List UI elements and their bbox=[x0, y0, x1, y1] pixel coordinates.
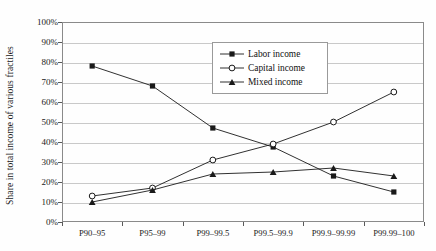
y-axis-tick-label: 20% bbox=[28, 177, 58, 187]
x-axis-tick-mark bbox=[424, 222, 425, 226]
y-axis-tick-mark bbox=[58, 202, 62, 203]
chart-figure: Share in total income of various fractil… bbox=[0, 0, 436, 251]
x-axis-tick-mark bbox=[62, 222, 63, 226]
y-axis-tick-mark bbox=[58, 42, 62, 43]
y-axis-tick-label: 10% bbox=[28, 197, 58, 207]
y-axis-tick-label: 80% bbox=[28, 57, 58, 67]
y-axis-tick-label: 30% bbox=[28, 157, 58, 167]
y-axis-tick-mark bbox=[58, 102, 62, 103]
y-axis-title: Share in total income of various fractil… bbox=[0, 0, 20, 251]
y-axis-tick-labels: 0%10%20%30%40%50%60%70%80%90%100% bbox=[24, 0, 58, 251]
y-axis-tick-label: 0% bbox=[28, 217, 58, 227]
gridline bbox=[63, 163, 423, 164]
legend-item: Mixed income bbox=[219, 75, 321, 89]
y-axis-tick-label: 40% bbox=[28, 137, 58, 147]
y-axis-tick-mark bbox=[58, 22, 62, 23]
y-axis-tick-label: 90% bbox=[28, 37, 58, 47]
y-axis-tick-mark bbox=[58, 122, 62, 123]
y-axis-tick-label: 70% bbox=[28, 77, 58, 87]
y-axis-tick-mark bbox=[58, 142, 62, 143]
gridline bbox=[63, 203, 423, 204]
y-axis-tick-mark bbox=[58, 82, 62, 83]
filled-square-icon bbox=[219, 48, 245, 60]
legend-item: Capital income bbox=[219, 61, 321, 75]
x-axis-tick-mark bbox=[183, 222, 184, 226]
y-axis-tick-mark bbox=[58, 182, 62, 183]
gridline bbox=[63, 143, 423, 144]
gridline bbox=[63, 103, 423, 104]
y-axis-tick-label: 100% bbox=[28, 17, 58, 27]
open-circle-icon bbox=[219, 62, 245, 74]
y-axis-tick-label: 50% bbox=[28, 117, 58, 127]
y-axis-tick-mark bbox=[58, 162, 62, 163]
legend-item: Labor income bbox=[219, 47, 321, 61]
x-axis-tick-label: P99.99–100 bbox=[354, 228, 434, 238]
chart-legend: Labor incomeCapital incomeMixed income bbox=[212, 42, 328, 94]
gridline bbox=[63, 183, 423, 184]
filled-triangle-icon bbox=[219, 76, 245, 88]
x-axis-tick-mark bbox=[364, 222, 365, 226]
legend-label: Labor income bbox=[248, 49, 300, 59]
legend-label: Mixed income bbox=[248, 77, 302, 87]
y-axis-tick-label: 60% bbox=[28, 97, 58, 107]
x-axis-tick-mark bbox=[122, 222, 123, 226]
y-axis-tick-mark bbox=[58, 62, 62, 63]
gridline bbox=[63, 123, 423, 124]
x-axis-tick-mark bbox=[303, 222, 304, 226]
x-axis-tick-mark bbox=[243, 222, 244, 226]
legend-label: Capital income bbox=[248, 63, 305, 73]
